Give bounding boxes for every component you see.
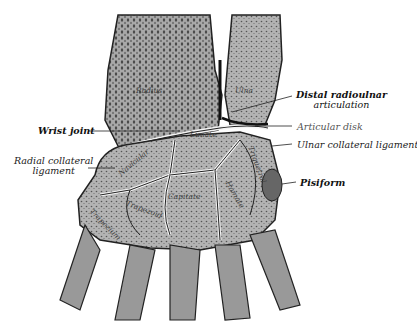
wrist-anatomy-figure: Radius Ulna Lunate Navicular Triquetral … (0, 0, 417, 330)
label-distal-radioulnar-articulation: Distal radioulnar articulation (296, 90, 387, 110)
label-articular-disk: Articular disk (297, 122, 363, 132)
label-radial-collateral-ligament: Radial collateral ligament (14, 156, 93, 176)
metacarpal-4 (215, 245, 250, 320)
bone-label-capitate: Capitate (168, 192, 200, 201)
ulna-bone (225, 15, 282, 125)
bone-label-ulna: Ulna (235, 86, 253, 95)
bone-label-lunate: Lunate (190, 130, 217, 139)
label-ulnar-collateral-ligament: Ulnar collateral ligament (297, 140, 417, 150)
bone-label-radius: Radius (136, 86, 162, 95)
label-pisiform: Pisiform (300, 178, 345, 188)
metacarpal-2 (115, 245, 155, 320)
metacarpal-3 (170, 245, 200, 320)
metacarpal-5 (250, 230, 300, 310)
label-wrist-joint: Wrist joint (38, 126, 95, 136)
metacarpal-1 (60, 225, 100, 310)
